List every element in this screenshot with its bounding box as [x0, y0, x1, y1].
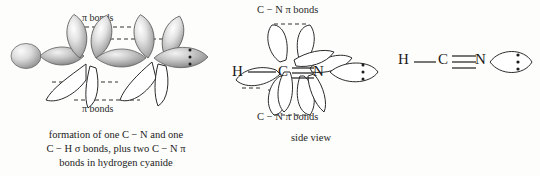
atom-label-c: C: [278, 63, 288, 80]
caption-line-2: C − H σ bonds, plus two C − N π: [6, 142, 226, 156]
cn-pi-bonds-label-top: C − N π bonds: [257, 4, 318, 16]
lewis-atom-c: C: [438, 51, 448, 68]
lewis-atom-h: H: [398, 51, 409, 68]
atom-label-h: H: [232, 63, 243, 80]
orbital-lobes-drawing: [0, 0, 232, 125]
side-view-panel: C − N π bonds C − N π bonds: [232, 0, 390, 176]
atom-label-n: N: [313, 63, 324, 80]
lewis-structure-drawing: [390, 42, 540, 102]
side-view-lone-pair-dots: [362, 64, 365, 81]
caption-line-3: bonds in hydrogen cyanide: [6, 156, 226, 170]
side-view-drawing: [232, 18, 390, 128]
lewis-structure-panel: H C N: [390, 0, 540, 176]
orbital-panel-caption: formation of one C − N and one C − H σ b…: [6, 128, 226, 171]
lone-pair-dots: [189, 49, 192, 66]
side-view-caption: side view: [251, 131, 371, 145]
lewis-lone-pair-dots: [516, 53, 519, 70]
lewis-atom-n: N: [475, 51, 486, 68]
caption-line-1: formation of one C − N and one: [6, 128, 226, 142]
hcn-orbital-figure: π bonds π bonds: [0, 0, 540, 176]
orbital-diagram-panel: π bonds π bonds: [0, 0, 232, 176]
